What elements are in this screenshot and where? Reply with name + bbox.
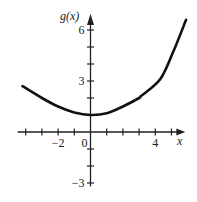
y-tick-label: −3 <box>72 176 85 190</box>
axes: −20463−3 <box>18 14 186 190</box>
plot-area: −20463−3 g(x) x <box>0 0 197 202</box>
x-tick-label: 0 <box>82 136 88 150</box>
g-curve <box>22 20 186 115</box>
y-axis-label: g(x) <box>60 9 79 23</box>
y-tick-label: 3 <box>79 74 85 88</box>
x-axis-label: x <box>176 134 183 148</box>
x-tick-label: −2 <box>52 136 65 150</box>
y-axis-arrow-icon <box>87 14 94 25</box>
y-tick-label: 6 <box>79 23 85 37</box>
x-tick-label: 4 <box>152 136 158 150</box>
chart: −20463−3 g(x) x <box>0 0 197 202</box>
